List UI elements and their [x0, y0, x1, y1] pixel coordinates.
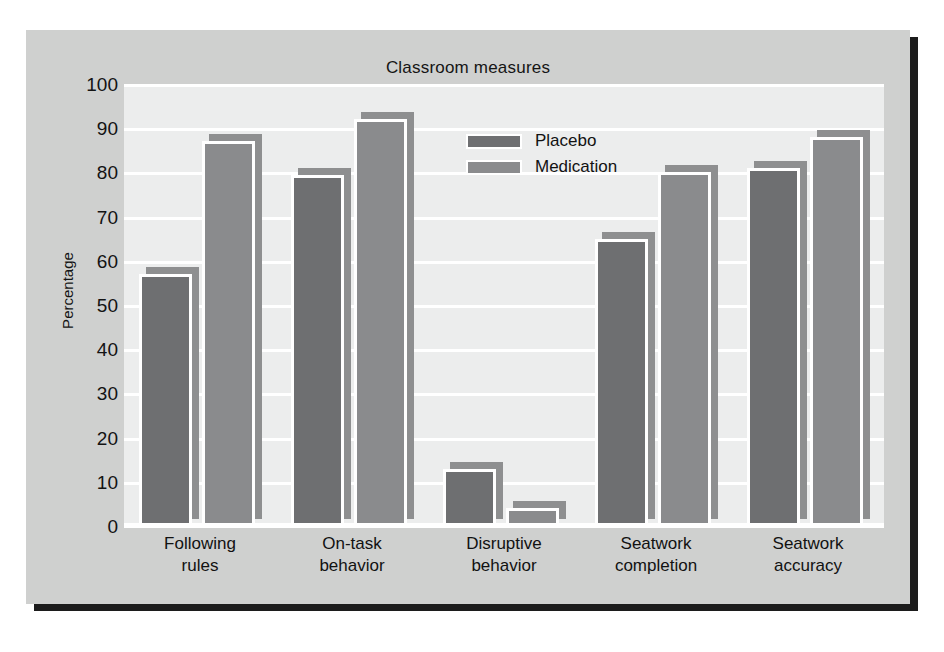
gridline	[124, 84, 884, 87]
legend-swatch-icon	[466, 134, 522, 149]
x-category-label-line: Following	[124, 533, 276, 555]
x-category-label-line: Seatwork	[732, 533, 884, 555]
bar-body	[747, 168, 800, 526]
legend-label: Placebo	[535, 131, 596, 151]
y-tick-label: 70	[97, 207, 118, 226]
y-tick-label: 100	[86, 75, 118, 94]
x-category-label-line: behavior	[428, 555, 580, 577]
x-category-label-line: behavior	[276, 555, 428, 577]
x-category-label-line: Disruptive	[428, 533, 580, 555]
bar-body	[810, 137, 863, 526]
bar-medication	[354, 119, 407, 526]
y-axis-tick-labels: 0102030405060708090100	[56, 84, 118, 526]
bar-body	[202, 141, 255, 526]
legend-swatch-icon	[466, 160, 522, 175]
y-tick-label: 10	[97, 472, 118, 491]
y-tick-label: 40	[97, 340, 118, 359]
legend-item-placebo: Placebo	[466, 128, 617, 154]
bar-body	[139, 274, 192, 526]
bar-placebo	[595, 239, 648, 526]
x-category-label-line: completion	[580, 555, 732, 577]
bar-body	[291, 175, 344, 526]
x-axis-baseline	[124, 523, 884, 528]
x-category-label-line: On-task	[276, 533, 428, 555]
y-tick-label: 90	[97, 119, 118, 138]
y-tick-label: 0	[107, 517, 118, 536]
x-category-label: On-taskbehavior	[276, 533, 428, 578]
x-category-label: Followingrules	[124, 533, 276, 578]
y-tick-label: 60	[97, 251, 118, 270]
figure-panel: Classroom measures Percentage 0102030405…	[26, 30, 910, 604]
legend-item-medication: Medication	[466, 154, 617, 180]
chart-figure: Classroom measures Percentage 0102030405…	[0, 0, 944, 652]
y-tick-label: 50	[97, 296, 118, 315]
bar-placebo	[291, 175, 344, 526]
bar-body	[443, 469, 496, 526]
y-tick-label: 80	[97, 163, 118, 182]
bar-body	[354, 119, 407, 526]
bar-medication	[810, 137, 863, 526]
x-category-label: Seatworkaccuracy	[732, 533, 884, 578]
chart-title: Classroom measures	[26, 58, 910, 78]
x-category-label-line: rules	[124, 555, 276, 577]
legend-label: Medication	[535, 157, 617, 177]
bar-placebo	[139, 274, 192, 526]
x-category-label-line: Seatwork	[580, 533, 732, 555]
y-tick-label: 20	[97, 428, 118, 447]
chart-legend: PlaceboMedication	[466, 128, 617, 180]
bar-medication	[658, 172, 711, 526]
y-tick-label: 30	[97, 384, 118, 403]
x-category-label: Seatworkcompletion	[580, 533, 732, 578]
bar-placebo	[747, 168, 800, 526]
bar-body	[595, 239, 648, 526]
bar-medication	[202, 141, 255, 526]
x-category-label: Disruptivebehavior	[428, 533, 580, 578]
x-axis-category-labels: FollowingrulesOn-taskbehaviorDisruptiveb…	[124, 533, 884, 603]
x-category-label-line: accuracy	[732, 555, 884, 577]
bar-placebo	[443, 469, 496, 526]
bar-body	[658, 172, 711, 526]
